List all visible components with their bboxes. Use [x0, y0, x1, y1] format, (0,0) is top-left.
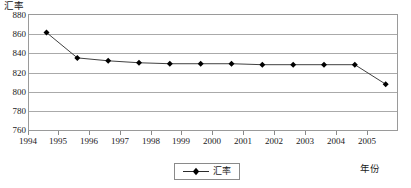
data-point: [259, 62, 265, 68]
data-point: [136, 60, 142, 66]
x-tick: [120, 131, 121, 135]
x-tick-label: 2002: [265, 136, 283, 146]
x-tick-label: 2005: [358, 136, 376, 146]
legend: 汇率: [174, 163, 240, 180]
x-tick: [28, 131, 29, 135]
y-tick-label: 840: [0, 49, 26, 58]
series-汇率: [28, 14, 398, 131]
x-axis-title: 年份: [360, 164, 380, 175]
y-tick-label: 780: [0, 107, 26, 116]
data-point: [105, 58, 111, 64]
series-line: [47, 33, 386, 85]
x-tick: [243, 131, 244, 135]
x-tick: [151, 131, 152, 135]
x-tick: [181, 131, 182, 135]
data-point: [167, 61, 173, 67]
legend-marker-icon: [183, 167, 209, 176]
y-tick-label: 820: [0, 69, 26, 78]
x-tick-label: 1997: [111, 136, 129, 146]
x-tick-label: 2001: [234, 136, 252, 146]
data-point: [290, 62, 296, 68]
y-tick-label: 800: [0, 88, 26, 97]
y-tick-label: 860: [0, 30, 26, 39]
x-tick-label: 2003: [296, 136, 314, 146]
y-tick-label: 880: [0, 11, 26, 20]
x-tick-label: 2004: [327, 136, 345, 146]
data-point: [352, 62, 358, 68]
y-tick-label: 760: [0, 126, 26, 135]
x-tick: [305, 131, 306, 135]
x-tick-label: 1999: [172, 136, 190, 146]
x-tick-label: 2000: [203, 136, 221, 146]
x-tick: [367, 131, 368, 135]
legend-label: 汇率: [213, 166, 231, 176]
x-tick: [58, 131, 59, 135]
y-axis-tick-labels: 880 860 840 820 800 780 760: [0, 0, 26, 188]
x-tick: [89, 131, 90, 135]
x-tick-label: 1998: [142, 136, 160, 146]
data-point: [198, 61, 204, 67]
series-markers: [44, 30, 389, 88]
line-chart: 汇率 880 860 840 820 800 780 760: [0, 0, 411, 188]
data-point: [229, 61, 235, 67]
x-tick: [336, 131, 337, 135]
x-tick-label: 1996: [80, 136, 98, 146]
x-tick-label: 1994: [19, 136, 37, 146]
data-point: [383, 81, 389, 87]
data-point: [321, 62, 327, 68]
x-tick: [274, 131, 275, 135]
x-tick: [212, 131, 213, 135]
x-tick-label: 1995: [49, 136, 67, 146]
